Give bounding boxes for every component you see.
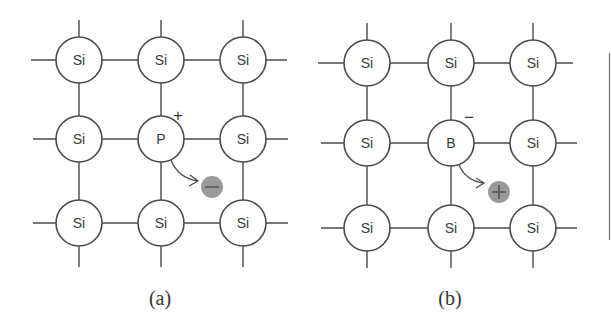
- svg-text:P: P: [156, 131, 165, 147]
- svg-text:Si: Si: [155, 215, 167, 231]
- atom-si: Si: [428, 40, 474, 86]
- svg-text:Si: Si: [361, 55, 373, 71]
- atom-si: Si: [56, 200, 102, 246]
- atom-si: Si: [510, 120, 556, 166]
- svg-text:Si: Si: [361, 135, 373, 151]
- atom-si: Si: [56, 116, 102, 162]
- svg-text:Si: Si: [361, 220, 373, 236]
- atom-si: Si: [344, 40, 390, 86]
- svg-text:Si: Si: [237, 215, 249, 231]
- atom-si: Si: [220, 116, 266, 162]
- electron-release-arrow-icon: [171, 160, 198, 186]
- panel-label-b: (b): [438, 287, 461, 310]
- atom-si: Si: [56, 37, 102, 83]
- atom-si: Si: [510, 40, 556, 86]
- svg-text:Si: Si: [237, 131, 249, 147]
- free-hole-icon: [488, 181, 510, 203]
- svg-text:Si: Si: [155, 52, 167, 68]
- svg-text:B: B: [446, 135, 455, 151]
- panel-label-a: (a): [149, 287, 171, 310]
- svg-text:Si: Si: [237, 52, 249, 68]
- svg-text:Si: Si: [527, 135, 539, 151]
- atom-si: Si: [220, 37, 266, 83]
- hole-release-arrow-icon: [459, 165, 484, 188]
- svg-text:Si: Si: [445, 55, 457, 71]
- atom-boron-dopant: B: [428, 120, 474, 166]
- dopant-positive-charge: +: [173, 106, 183, 125]
- svg-text:Si: Si: [527, 220, 539, 236]
- svg-text:Si: Si: [445, 220, 457, 236]
- doping-diagram: Si Si Si Si P Si Si Si Si + (a): [0, 0, 611, 317]
- atom-si: Si: [510, 205, 556, 251]
- svg-text:Si: Si: [73, 131, 85, 147]
- panel-a-n-type: Si Si Si Si P Si Si Si Si + (a): [31, 20, 288, 310]
- atom-si: Si: [138, 37, 184, 83]
- atom-si: Si: [428, 205, 474, 251]
- free-electron-icon: [201, 176, 223, 198]
- atom-si: Si: [220, 200, 266, 246]
- atom-si: Si: [138, 200, 184, 246]
- dopant-negative-charge: −: [464, 108, 474, 127]
- svg-text:Si: Si: [73, 52, 85, 68]
- svg-text:Si: Si: [73, 215, 85, 231]
- atom-si: Si: [344, 205, 390, 251]
- panel-b-p-type: Si Si Si Si B Si Si Si Si − (b): [318, 23, 577, 310]
- svg-text:Si: Si: [527, 55, 539, 71]
- atom-si: Si: [344, 120, 390, 166]
